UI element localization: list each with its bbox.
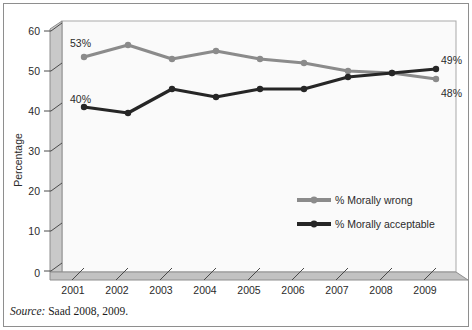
data-point[interactable] [125,110,131,116]
data-point[interactable] [301,60,307,66]
y-tick-label-20: 20 [28,185,40,197]
annotation-end-wrong: 48% [441,87,462,99]
data-point[interactable] [257,56,263,62]
source-note: Source: Saad 2008, 2009. [10,305,128,317]
data-point[interactable] [213,94,219,100]
chart-figure: 60 50 40 30 20 10 0 Percentage 2001 2002… [0,0,472,330]
data-point[interactable] [345,68,351,74]
legend-marker-morally-wrong [311,197,318,204]
data-point[interactable] [301,86,307,92]
data-point[interactable] [433,66,439,72]
x-tick-label-2002: 2002 [105,284,129,296]
annotation-end-acceptable: 49% [441,54,462,66]
data-point[interactable] [257,86,263,92]
x-tick-label-2003: 2003 [149,284,173,296]
data-point[interactable] [169,86,175,92]
data-point[interactable] [345,74,351,80]
axis-floor [50,272,468,280]
x-tick-label-2005: 2005 [237,284,261,296]
data-point[interactable] [81,54,87,60]
data-point[interactable] [125,42,131,48]
line-chart: 60 50 40 30 20 10 0 Percentage 2001 2002… [0,0,472,330]
annotation-start-acceptable: 40% [70,93,91,105]
legend-marker-morally-acceptable [311,221,318,228]
y-tick-label-0: 0 [34,267,40,279]
axis-wall-left [50,21,62,272]
y-tick-label-30: 30 [28,145,40,157]
data-point[interactable] [433,76,439,82]
x-tick-label-2007: 2007 [325,284,349,296]
x-tick-label-2001: 2001 [61,284,85,296]
data-point[interactable] [213,48,219,54]
annotation-start-wrong: 53% [70,37,91,49]
x-tick-label-2009: 2009 [413,284,437,296]
data-point[interactable] [389,70,395,76]
source-note-text: Saad 2008, 2009. [45,305,128,317]
y-tick-label-10: 10 [28,225,40,237]
x-tick-label-2004: 2004 [193,284,217,296]
data-point[interactable] [169,56,175,62]
y-axis-title: Percentage [12,133,24,187]
legend-label-morally-wrong: % Morally wrong [335,194,413,206]
x-tick-label-2006: 2006 [281,284,305,296]
source-note-prefix: Source: [10,305,45,317]
y-tick-label-40: 40 [28,105,40,117]
legend-label-morally-acceptable: % Morally acceptable [335,218,435,230]
y-tick-label-60: 60 [28,25,40,37]
x-tick-label-2008: 2008 [369,284,393,296]
y-tick-label-50: 50 [28,65,40,77]
